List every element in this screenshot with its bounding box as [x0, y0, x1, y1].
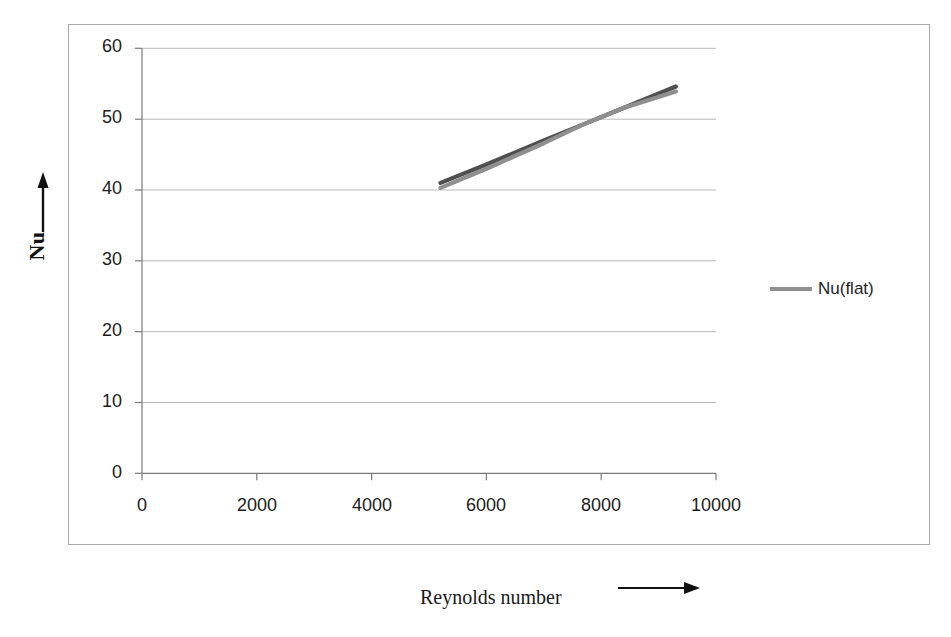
y-tick-label-50: 50: [82, 107, 122, 128]
y-tick-label-0: 0: [82, 462, 122, 483]
y-tick-label-30: 30: [82, 249, 122, 270]
x-axis-title: Reynolds number: [420, 578, 720, 618]
x-tick-label-6000: 6000: [446, 495, 526, 516]
x-tick-label-2000: 2000: [217, 495, 297, 516]
y-axis-title: Nu: [6, 155, 70, 285]
gridlines: [142, 48, 716, 402]
data-series-nu-flat: [440, 92, 675, 188]
y-tick-label-20: 20: [82, 320, 122, 341]
x-tick-label-0: 0: [102, 495, 182, 516]
chart-legend: Nu(flat): [770, 272, 920, 306]
x-axis-title-label: Reynolds number: [420, 586, 562, 609]
x-tick-label-4000: 4000: [332, 495, 412, 516]
y-axis-title-label: Nu: [24, 191, 50, 301]
y-tick-label-40: 40: [82, 178, 122, 199]
y-tick-label-10: 10: [82, 391, 122, 412]
x-axis-ticks: [142, 473, 716, 480]
x-tick-label-8000: 8000: [561, 495, 641, 516]
legend-line-swatch-nu-flat: [770, 287, 812, 291]
y-tick-label-60: 60: [82, 36, 122, 57]
y-axis-ticks: [135, 48, 142, 473]
legend-label-nu-flat: Nu(flat): [818, 279, 874, 299]
chart-plot-area: [0, 0, 951, 637]
x-tick-label-10000: 10000: [676, 495, 756, 516]
